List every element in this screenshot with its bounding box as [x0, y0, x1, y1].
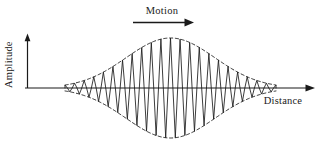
arrow-right-icon — [306, 84, 316, 91]
motion-label: Motion — [146, 5, 179, 16]
wave-packet-figure: Amplitude Distance Motion — [0, 0, 328, 152]
y-axis-label: Amplitude — [3, 41, 14, 88]
x-axis-label: Distance — [264, 95, 302, 106]
arrow-up-icon — [25, 34, 31, 42]
motion-arrow-icon — [185, 19, 195, 27]
envelope-lower-curve — [65, 91, 276, 138]
figure-canvas: Amplitude Distance Motion — [0, 0, 328, 152]
